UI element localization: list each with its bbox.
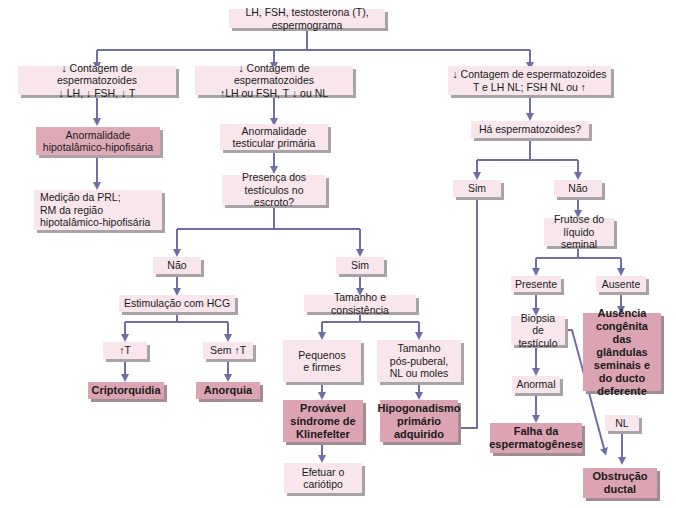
node-label: ↑T bbox=[119, 344, 131, 357]
node-sperm-yes: Sim bbox=[453, 180, 501, 197]
node-cryptorchidism: Criptorquidia bbox=[88, 382, 164, 399]
node-label: Estimulação com HCG bbox=[124, 297, 230, 310]
node-label: Sim bbox=[351, 259, 369, 272]
node-label: Presença dos testículos no escroto? bbox=[225, 171, 323, 209]
node-label: NL bbox=[615, 417, 628, 430]
node-label: Medição da PRL; RM da região hipotalâmic… bbox=[40, 191, 150, 229]
node-branch-low-gonadotropins: ↓ Contagem de espermatozoides ↓ LH, ↓ FS… bbox=[18, 66, 176, 95]
node-congenital-absence-seminal-vesicles: Ausência congênita das glândulas seminai… bbox=[583, 313, 661, 391]
node-primary-testicular-abnormality: Anormalidade testicular primária bbox=[220, 124, 328, 150]
node-biopsy-normal: NL bbox=[605, 415, 639, 431]
node-branch-normal-t-lh: ↓ Contagem de espermatozoides T e LH NL;… bbox=[448, 66, 611, 95]
node-t-increase: ↑T bbox=[103, 342, 147, 359]
node-label: Não bbox=[568, 182, 587, 195]
node-label: Criptorquidia bbox=[91, 384, 160, 397]
node-label: Efetuar o cariótipo bbox=[302, 466, 345, 491]
node-label: ↓ Contagem de espermatozoides ↑LH ou FSH… bbox=[198, 62, 350, 100]
node-hypothalamic-pituitary-abnormality: Anormalidade hipotalâmico-hipofisária bbox=[36, 127, 160, 155]
node-label: Frutose do líquido seminal bbox=[547, 213, 611, 251]
node-acquired-primary-hypogonadism: Hipogonadismo primário adquirido bbox=[380, 400, 458, 442]
node-fructose-absent: Ausente bbox=[596, 276, 646, 292]
node-label: LH, FSH, testosterona (T), espermograma bbox=[232, 6, 382, 31]
node-size-consistency: Tamanho e consistência bbox=[304, 295, 416, 312]
node-label: ↓ Contagem de espermatozoides ↓ LH, ↓ FS… bbox=[21, 62, 173, 100]
node-scrotum-yes: Sim bbox=[336, 257, 384, 274]
node-label: Biopsia de testículo bbox=[514, 312, 562, 350]
node-label: Sim bbox=[468, 182, 486, 195]
node-label: Ausente bbox=[602, 278, 641, 291]
node-klinefelter-syndrome: Provável síndrome de Klinefelter bbox=[283, 400, 363, 442]
node-label: ↓ Contagem de espermatozoides T e LH NL;… bbox=[452, 68, 606, 93]
node-label: Falha da espermatogênese bbox=[489, 425, 583, 451]
node-fructose-present: Presente bbox=[511, 276, 561, 292]
node-small-firm-testes: Pequenos e firmes bbox=[283, 340, 361, 382]
node-label: Obstrução ductal bbox=[592, 470, 647, 496]
node-anorchia: Anorquia bbox=[196, 382, 260, 399]
node-label: Provável síndrome de Klinefelter bbox=[290, 402, 355, 441]
node-label: Anormalidade hipotalâmico-hipofisária bbox=[43, 129, 153, 154]
node-label: Pequenos e firmes bbox=[298, 349, 345, 374]
node-prl-measurement-mri: Medição da PRL; RM da região hipotalâmic… bbox=[34, 190, 162, 230]
node-label: Anorquia bbox=[204, 384, 252, 397]
node-perform-karyotype: Efetuar o cariótipo bbox=[284, 463, 362, 493]
node-branch-high-gonadotropins: ↓ Contagem de espermatozoides ↑LH ou FSH… bbox=[195, 66, 353, 95]
node-label: Há espermatozoides? bbox=[479, 123, 581, 136]
node-testes-in-scrotum-question: Presença dos testículos no escroto? bbox=[222, 175, 326, 205]
node-label: Ausência congênita das glândulas seminai… bbox=[586, 307, 658, 398]
node-label: Presente bbox=[515, 278, 557, 291]
node-ductal-obstruction: Obstrução ductal bbox=[583, 468, 657, 498]
node-seminal-fructose: Frutose do líquido seminal bbox=[544, 218, 614, 246]
node-no-t-increase: Sem ↑T bbox=[203, 342, 253, 359]
node-label: Anormalidade testicular primária bbox=[233, 125, 316, 150]
node-scrotum-no: Não bbox=[153, 257, 201, 274]
node-label: Tamanho e consistência bbox=[307, 291, 413, 316]
node-label: Tamanho pós-puberal, NL ou moles bbox=[390, 342, 449, 380]
flowchart-canvas: LH, FSH, testosterona (T), espermograma … bbox=[0, 0, 676, 508]
node-label: Sem ↑T bbox=[210, 344, 246, 357]
node-sperm-present-question: Há espermatozoides? bbox=[471, 121, 589, 138]
node-testicular-biopsy: Biopsia de testículo bbox=[511, 316, 565, 345]
node-label: Hipogonadismo primário adquirido bbox=[377, 402, 460, 441]
node-spermatogenesis-failure: Falha da espermatogênese bbox=[490, 423, 582, 453]
node-postpubertal-size: Tamanho pós-puberal, NL ou moles bbox=[377, 340, 461, 382]
node-sperm-no: Não bbox=[554, 180, 602, 197]
node-biopsy-abnormal: Anormal bbox=[512, 376, 560, 393]
node-label: Anormal bbox=[516, 378, 555, 391]
node-hcg-stimulation: Estimulação com HCG bbox=[119, 295, 235, 312]
node-root-tests: LH, FSH, testosterona (T), espermograma bbox=[229, 9, 385, 28]
node-label: Não bbox=[167, 259, 186, 272]
